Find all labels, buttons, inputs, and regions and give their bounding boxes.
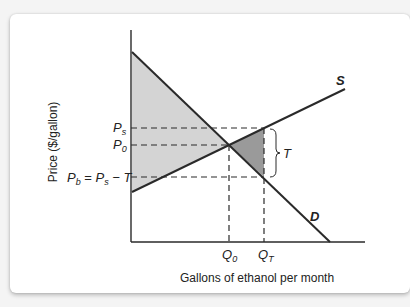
pb-tick-label: Pb = Ps − T bbox=[67, 170, 133, 187]
subsidy-brace bbox=[270, 129, 280, 177]
consumer-producer-surplus-region bbox=[132, 52, 229, 192]
p0-tick-label: P0 bbox=[113, 137, 127, 154]
x-axis-title: Gallons of ethanol per month bbox=[180, 271, 334, 285]
deadweight-loss-region bbox=[229, 128, 264, 177]
supply-label: S bbox=[336, 73, 345, 88]
q0-tick-label: Q0 bbox=[222, 247, 237, 264]
subsidy-label: T bbox=[283, 146, 292, 161]
ps-tick-label: Ps bbox=[113, 120, 127, 137]
y-axis-title: Price ($/gallon) bbox=[46, 102, 60, 183]
demand-label: D bbox=[310, 209, 320, 224]
qt-tick-label: QT bbox=[258, 247, 275, 264]
